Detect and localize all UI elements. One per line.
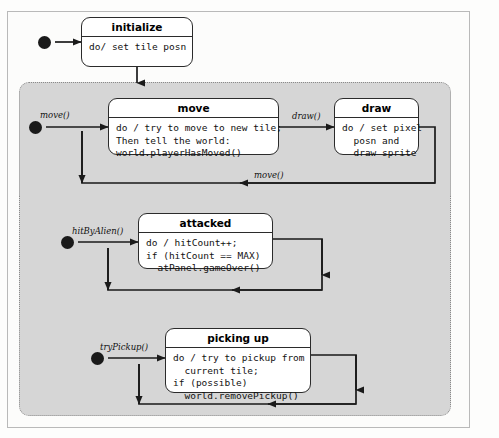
state-initialize-title: initialize — [82, 18, 192, 37]
state-attacked[interactable]: attacked do / hitCount++; if (hitCount =… — [138, 213, 273, 269]
state-draw-title: draw — [335, 99, 418, 118]
state-picking-up-body: do / try to pickup from current tile; if… — [166, 348, 310, 407]
state-initialize[interactable]: initialize do/ set tile posn — [81, 17, 193, 67]
state-attacked-title: attacked — [139, 214, 272, 233]
transition-label-hit-by-alien: hitByAlien() — [72, 226, 123, 236]
transition-label-draw: draw() — [292, 111, 320, 121]
state-draw-body: do / set pixel posn and draw sprite — [335, 118, 418, 165]
transition-label-move-in: move() — [40, 110, 70, 120]
state-picking-up[interactable]: picking up do / try to pickup from curre… — [165, 328, 311, 393]
state-initialize-body: do/ set tile posn — [82, 37, 192, 59]
state-attacked-body: do / hitCount++; if (hitCount == MAX) at… — [139, 233, 272, 280]
start-dot-picking-up — [91, 352, 104, 365]
start-dot-move — [29, 121, 42, 134]
transition-label-try-pickup: tryPickup() — [100, 342, 148, 352]
start-dot-attacked — [61, 236, 74, 249]
state-picking-up-title: picking up — [166, 329, 310, 348]
state-draw[interactable]: draw do / set pixel posn and draw sprite — [334, 98, 419, 155]
state-diagram-page: move() draw() move() hitByAlien() tryPic… — [0, 0, 499, 438]
state-move-body: do / try to move to new tile; Then tell … — [109, 118, 278, 165]
state-move[interactable]: move do / try to move to new tile; Then … — [108, 98, 279, 155]
state-move-title: move — [109, 99, 278, 118]
transition-label-move-loop: move() — [254, 170, 284, 180]
start-dot-initialize — [38, 36, 51, 49]
